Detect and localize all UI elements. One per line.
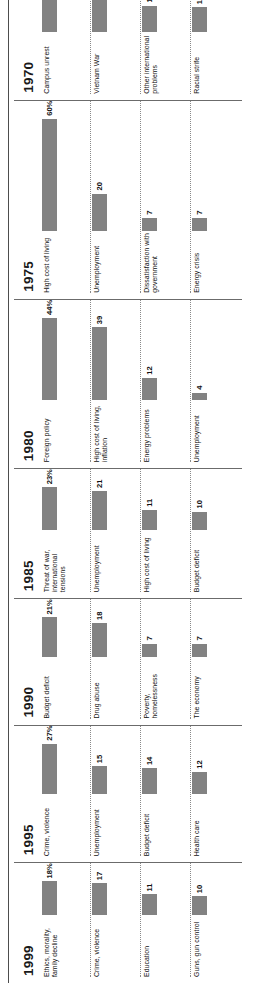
value-bar [142, 768, 157, 794]
value-label: 7 [142, 636, 157, 640]
row-category-label: Unemployment [192, 415, 201, 462]
panel-year-label: 1990 [20, 599, 37, 717]
chart-row: Foreign policy44% [41, 300, 91, 462]
row-category-label: High cost of living [42, 238, 51, 293]
row-label-wrap: High cost of living [42, 231, 90, 293]
row-category-label: Budget deficit [42, 676, 51, 718]
row-bar-zone: 10 [192, 863, 240, 915]
row-bar-zone: 4 [192, 300, 240, 400]
value-bar [92, 194, 107, 231]
row-label-wrap: Budget deficit [192, 530, 240, 592]
row-label-wrap: Guns, gun control [192, 915, 240, 977]
chart-row: Unemployment15 [91, 726, 141, 857]
row-label-wrap: Threat of war, international tensions [42, 530, 90, 592]
chart-row: Racial strife13 [191, 0, 240, 94]
value-label: 7 [192, 636, 207, 640]
year-panel: 1999Ethics, morality, family decline18%C… [14, 862, 242, 983]
row-bar-zone: 60% [42, 101, 90, 231]
row-category-label: Budget deficit [142, 814, 151, 856]
panel-year-label: 1970 [20, 0, 37, 93]
row-label-wrap: The economy [192, 657, 240, 719]
year-panel: 1985Threat of war, international tension… [14, 468, 242, 598]
value-label: 12 [192, 760, 207, 768]
chart-row: Other international problems14 [141, 0, 191, 94]
row-label-wrap: Energy problems [142, 400, 190, 462]
row-category-label: Guns, gun control [192, 922, 201, 977]
chart-row: Budget deficit10 [191, 469, 240, 592]
value-bar [142, 6, 157, 32]
chart-row: Guns, gun control10 [191, 863, 240, 977]
row-label-wrap: Energy crisis [192, 231, 240, 293]
value-label: 21% [42, 599, 57, 614]
panel-rows: Foreign policy44%High cost of living, in… [41, 300, 242, 462]
value-label: 7 [142, 211, 157, 215]
row-category-label: Unemployment [92, 545, 101, 592]
value-label: 18% [42, 863, 57, 878]
value-label: 39 [92, 316, 107, 324]
value-label: 20 [92, 182, 107, 190]
row-bar-zone: 14 [142, 0, 190, 32]
panel-rows: Ethics, morality, family decline18%Crime… [41, 863, 242, 977]
row-category-label: Crime, violence [42, 808, 51, 856]
panel-rows: High cost of living60%Unemployment20Diss… [41, 101, 242, 293]
row-label-wrap: Health care [192, 794, 240, 856]
value-label: 23% [42, 469, 57, 484]
chart-row: High cost of living60% [41, 101, 91, 293]
row-bar-zone: 20 [92, 101, 140, 231]
row-bar-zone: 21 [92, 469, 140, 530]
row-category-label: Health care [192, 820, 201, 856]
row-bar-zone: 17 [92, 863, 140, 915]
year-panel: 1990Budget deficit21%Drug abuse18Poverty… [14, 598, 242, 724]
row-category-label: Ethics, morality, family decline [42, 915, 59, 977]
chart-row: Unemployment4 [191, 300, 240, 462]
row-label-wrap: Unemployment [192, 400, 240, 462]
chart-row: Dissatisfaction with government7 [141, 101, 191, 293]
row-bar-zone: 7 [192, 101, 240, 231]
row-category-label: Unemployment [92, 246, 101, 293]
value-label: 60% [42, 101, 57, 116]
value-label: 13 [192, 0, 207, 4]
panel-rows: Budget deficit21%Drug abuse18Poverty, ho… [41, 599, 242, 718]
row-label-wrap: Dissatisfaction with government [142, 231, 190, 293]
row-bar-zone: 21% [42, 599, 90, 656]
chart-row: Campus unrest27% [41, 0, 91, 94]
panel-rows: Campus unrest27%Vietnam War22Other inter… [41, 0, 242, 94]
row-label-wrap: Ethics, morality, family decline [42, 915, 90, 977]
value-label: 15 [92, 755, 107, 763]
top-divider-rule [8, 0, 9, 983]
panel-year-label: 1985 [20, 469, 37, 591]
chart-row: Crime, violence27% [41, 726, 91, 857]
value-bar [192, 512, 207, 531]
row-label-wrap: Foreign policy [42, 400, 90, 462]
row-category-label: Racial strife [192, 57, 201, 94]
chart-row: Poverty, homelessness7 [141, 599, 191, 718]
value-label: 14 [142, 757, 157, 765]
value-bar [92, 883, 107, 915]
chart-row: Threat of war, international tensions23% [41, 469, 91, 592]
row-bar-zone: 7 [192, 599, 240, 656]
row-label-wrap: Unemployment [92, 794, 140, 856]
row-bar-zone: 13 [192, 0, 240, 32]
value-bar [192, 644, 207, 657]
chart-row: Health care12 [191, 726, 240, 857]
row-category-label: Unemployment [92, 809, 101, 856]
row-category-label: Threat of war, international tensions [42, 530, 67, 592]
row-category-label: Dissatisfaction with government [142, 231, 159, 293]
chart-row: The economy7 [191, 599, 240, 718]
row-bar-zone: 7 [142, 101, 190, 231]
value-label: 18 [92, 612, 107, 620]
row-category-label: Energy problems [142, 409, 151, 462]
row-category-label: Campus unrest [42, 46, 51, 93]
row-category-label: Vietnam War [92, 54, 101, 94]
row-bar-zone: 7 [142, 599, 190, 656]
row-category-label: Poverty, homelessness [142, 657, 159, 719]
row-bar-zone: 23% [42, 469, 90, 530]
year-panel: 1970Campus unrest27%Vietnam War22Other i… [14, 0, 242, 100]
value-label: 17 [92, 872, 107, 880]
row-bar-zone: 27% [42, 0, 90, 32]
row-category-label: The economy [192, 676, 201, 718]
panel-year-label: 1975 [20, 101, 37, 292]
value-bar [192, 772, 207, 794]
value-bar [192, 218, 207, 231]
row-label-wrap: Crime, violence [92, 915, 140, 977]
